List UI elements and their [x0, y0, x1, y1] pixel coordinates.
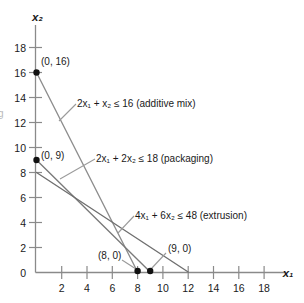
y-tick-label-12: 12 [14, 117, 26, 129]
y-tick-label-10: 10 [14, 142, 26, 154]
plot-svg: 18 16 14 12 10 8 6 4 2 0 2 4 6 8 10 12 1… [0, 0, 304, 303]
leader-additive-mix [59, 104, 76, 121]
x-tick-label-10: 10 [157, 282, 169, 294]
point-marker-0-9 [33, 157, 39, 163]
point-label-0-16: (0, 16) [41, 56, 70, 67]
x-tick-label-14: 14 [208, 282, 220, 294]
y-tick-label-6: 6 [20, 192, 26, 204]
x-tick-label-4: 4 [84, 282, 90, 294]
x-tick-label-12: 12 [182, 282, 194, 294]
y-tick-label-0: 0 [20, 267, 26, 279]
x-tick-label-18: 18 [258, 282, 270, 294]
point-label-9-0: (9, 0) [168, 243, 191, 254]
annotation-extrusion: 4x₁ + 6x₂ ≤ 48 (extrusion) [135, 210, 247, 221]
y-tick-labels: 18 16 14 12 10 8 6 4 2 0 [14, 42, 26, 279]
point-marker-8-0 [134, 268, 140, 274]
constraint-graph: g [0, 0, 304, 303]
x-axis-title: x₁ [282, 267, 293, 279]
y-axis-title: x₂ [31, 11, 43, 23]
y-tick-label-14: 14 [14, 92, 26, 104]
y-tick-label-8: 8 [20, 167, 26, 179]
y-tick-label-4: 4 [20, 217, 26, 229]
point-label-0-9: (0, 9) [41, 150, 64, 161]
point-marker-0-16 [33, 69, 39, 75]
annotation-additive-mix: 2x₁ + x₂ ≤ 16 (additive mix) [77, 98, 196, 109]
point-marker-9-0 [147, 268, 153, 274]
constraint-line-packaging [37, 160, 151, 272]
x-tick-label-16: 16 [233, 282, 245, 294]
point-label-8-0: (8, 0) [98, 250, 121, 261]
axes-group [36, 25, 286, 273]
y-tick-label-16: 16 [14, 67, 26, 79]
x-tick-label-6: 6 [109, 282, 115, 294]
y-tick-label-18: 18 [14, 42, 26, 54]
y-tick-label-2: 2 [20, 242, 26, 254]
x-tick-labels: 2 4 6 8 10 12 14 16 18 [59, 282, 270, 294]
x-tick-label-8: 8 [135, 282, 141, 294]
leader-point-9-0 [151, 253, 166, 269]
annotation-packaging: 2x₁ + 2x₂ ≤ 18 (packaging) [96, 153, 213, 164]
x-tick-label-2: 2 [59, 282, 65, 294]
leader-lines [59, 104, 166, 269]
leader-packaging [60, 159, 95, 179]
